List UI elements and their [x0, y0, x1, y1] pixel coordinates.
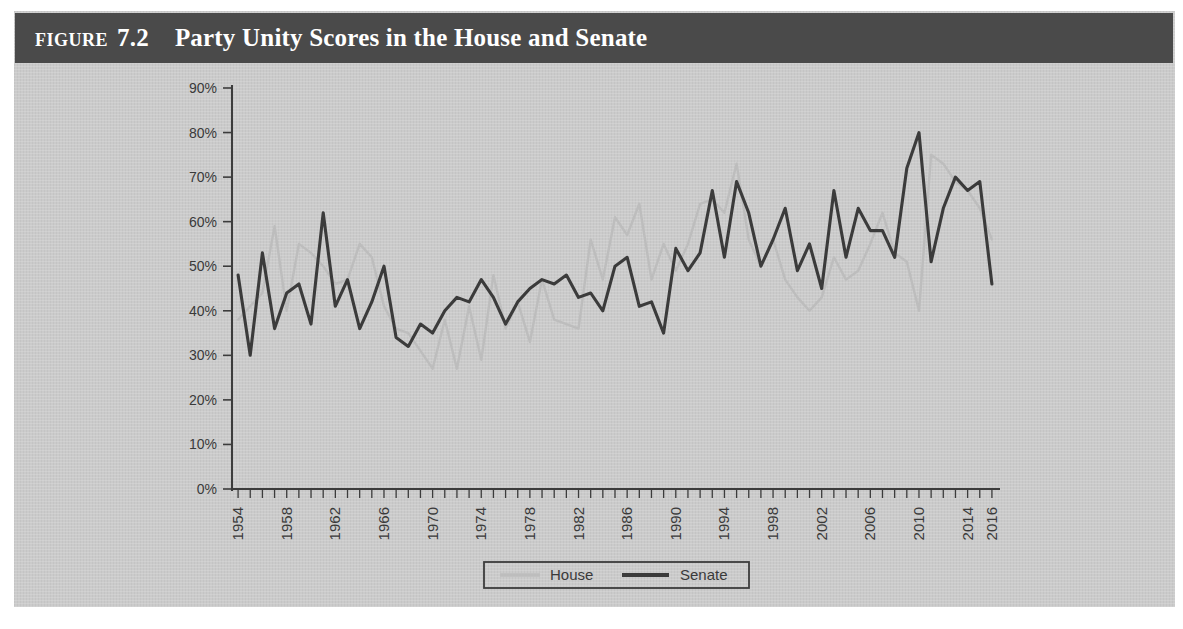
- x-tick-label: 2006: [861, 507, 878, 540]
- y-tick-label: 50%: [189, 258, 217, 274]
- x-tick-label: 1978: [521, 507, 538, 540]
- chart-legend: HouseSenate: [484, 562, 749, 588]
- x-tick-label: 2010: [910, 507, 927, 540]
- chart-area: 90%80%70%60%50%40%30%20%10%0% 1954195819…: [14, 64, 1175, 607]
- x-tick-label: 1970: [424, 507, 441, 540]
- series-line-senate: [238, 133, 992, 356]
- y-tick-label: 0%: [197, 481, 217, 497]
- line-chart: 90%80%70%60%50%40%30%20%10%0% 1954195819…: [14, 64, 1175, 607]
- figure-root: Figure 7.2 Party Unity Scores in the Hou…: [0, 0, 1183, 629]
- x-tick-label: 1966: [375, 507, 392, 540]
- series-line-house: [238, 155, 992, 369]
- y-tick-label: 90%: [189, 80, 217, 96]
- x-tick-label: 2002: [813, 507, 830, 540]
- x-axis: 1954195819621966197019741978198219861990…: [229, 489, 1000, 540]
- x-tick-label: 1994: [715, 507, 732, 540]
- legend-label-senate: Senate: [680, 566, 728, 583]
- y-tick-label: 40%: [189, 303, 217, 319]
- figure-header-bar: Figure 7.2 Party Unity Scores in the Hou…: [15, 13, 1173, 63]
- figure-title-text: Party Unity Scores in the House and Sena…: [175, 24, 648, 52]
- x-tick-label: 1990: [667, 507, 684, 540]
- chart-series-group: [238, 133, 992, 369]
- x-tick-label: 1986: [618, 507, 635, 540]
- figure-header-title: Figure 7.2 Party Unity Scores in the Hou…: [35, 24, 647, 52]
- y-tick-label: 70%: [189, 169, 217, 185]
- y-tick-label: 80%: [189, 125, 217, 141]
- x-tick-label: 1982: [570, 507, 587, 540]
- x-tick-label: 2016: [983, 507, 1000, 540]
- figure-number: 7.2: [117, 24, 149, 52]
- y-tick-label: 60%: [189, 214, 217, 230]
- x-tick-label: 1974: [472, 507, 489, 540]
- x-tick-label: 1962: [326, 507, 343, 540]
- x-tick-label: 2014: [959, 507, 976, 540]
- x-tick-label: 1958: [278, 507, 295, 540]
- y-tick-label: 20%: [189, 392, 217, 408]
- y-axis: 90%80%70%60%50%40%30%20%10%0%: [189, 80, 232, 497]
- legend-label-house: House: [550, 566, 593, 583]
- x-tick-label: 1998: [764, 507, 781, 540]
- y-tick-label: 10%: [189, 436, 217, 452]
- x-tick-label: 1954: [229, 507, 246, 540]
- figure-label: Figure: [35, 24, 108, 52]
- y-tick-label: 30%: [189, 347, 217, 363]
